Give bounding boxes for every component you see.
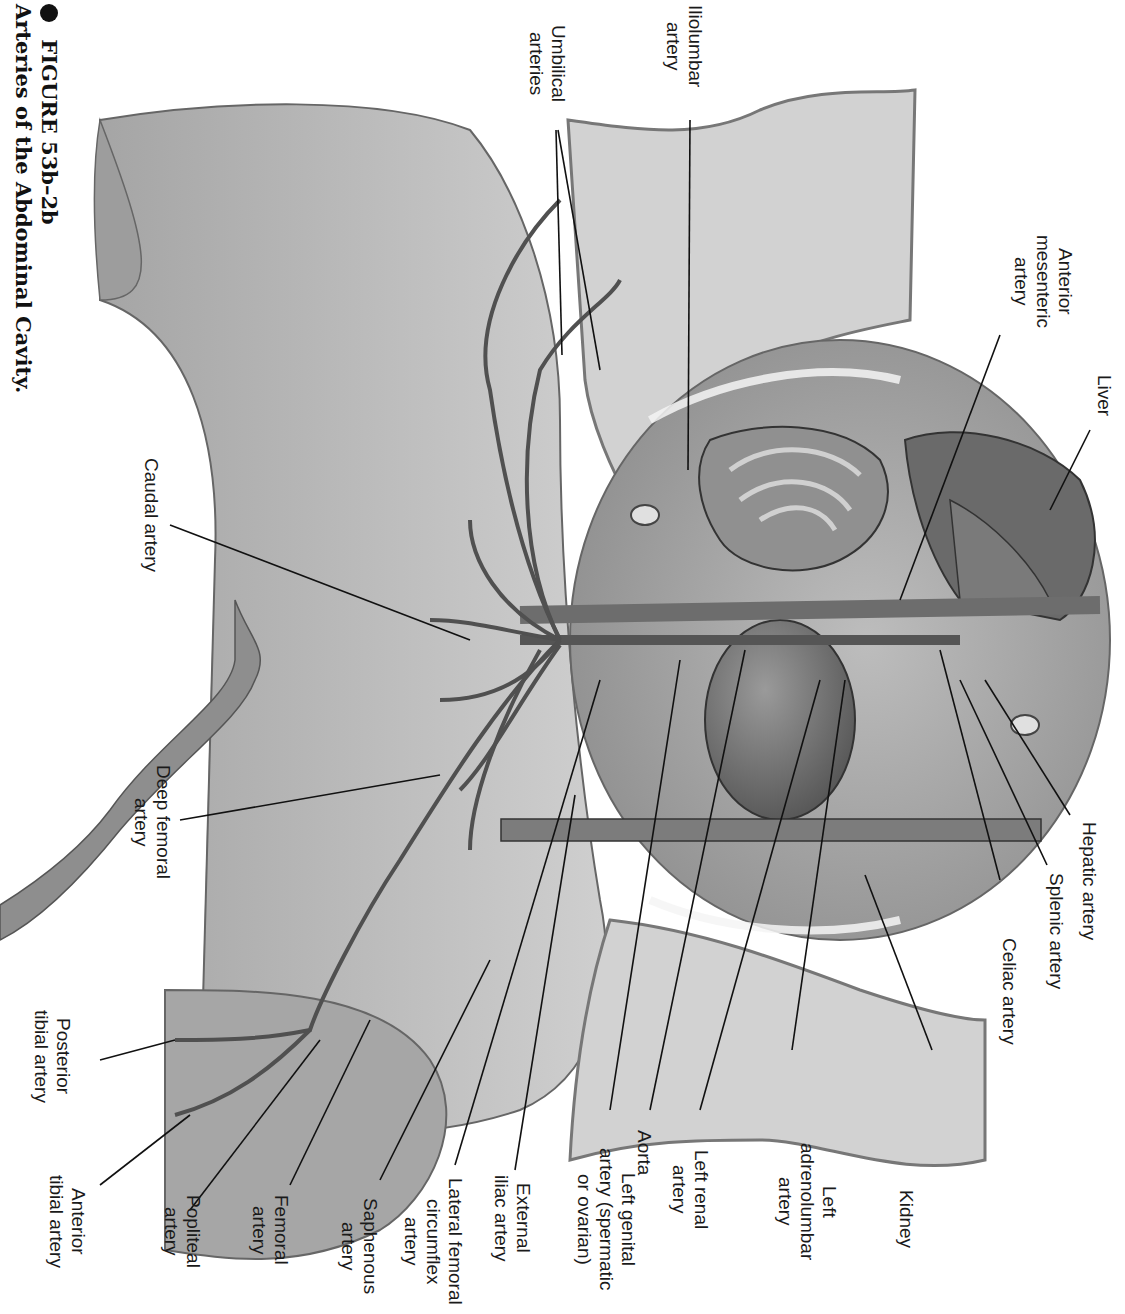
label-caudal-artery: Caudal artery <box>140 458 162 572</box>
label-external-iliac-artery: External iliac artery <box>490 1175 534 1262</box>
label-left-adrenolumbar-artery: Left adrenolumbar artery <box>774 1143 840 1260</box>
label-lateral-femoral-circumflex-artery: Lateral femoral circumflex artery <box>400 1178 466 1305</box>
label-anterior-mesenteric-artery: Anterior mesenteric artery <box>1010 235 1076 328</box>
anatomy-figure: FIGURE 53b–2b Arteries of the Abdominal … <box>0 0 1125 1314</box>
label-left-renal-artery: Left renal artery <box>668 1150 712 1229</box>
label-hepatic-artery: Hepatic artery <box>1078 822 1100 940</box>
body-wall-bottom <box>570 920 985 1166</box>
kidney <box>705 620 855 820</box>
anatomy-illustration <box>0 0 1125 1314</box>
figure-caption: FIGURE 53b–2b Arteries of the Abdominal … <box>10 4 62 393</box>
label-liver: Liver <box>1093 375 1115 416</box>
label-saphenous-artery: Saphenous artery <box>337 1198 381 1294</box>
label-deep-femoral-artery: Deep femoral artery <box>130 765 174 879</box>
label-celiac-artery: Celiac artery <box>998 938 1020 1045</box>
bullet-icon <box>40 4 58 22</box>
label-splenic-artery: Splenic artery <box>1045 873 1067 989</box>
figure-number: FIGURE 53b–2b <box>37 39 62 224</box>
label-kidney: Kidney <box>895 1190 917 1248</box>
aorta <box>501 819 1041 841</box>
label-anterior-tibial-artery: Anterior tibial artery <box>45 1175 89 1268</box>
label-iliolumbar-artery: Iliolumbar artery <box>662 5 706 87</box>
figure-title: Arteries of the Abdominal Cavity. <box>11 4 36 393</box>
label-popliteal-artery: Popliteal artery <box>160 1195 204 1268</box>
label-left-genital-artery: Left genital artery (spermatic or ovaria… <box>573 1148 639 1291</box>
label-femoral-artery: Femoral artery <box>248 1195 292 1265</box>
label-umbilical-arteries: Umbilical arteries <box>525 25 569 102</box>
label-posterior-tibial-artery: Posterior tibial artery <box>30 1010 74 1103</box>
